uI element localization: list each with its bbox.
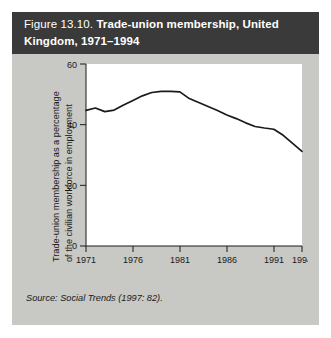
y-axis-ticks: 0 20 40 60 <box>67 60 86 251</box>
x-tick-label-1994: 1994 <box>292 255 308 265</box>
figure-container: Figure 13.10. Trade-union membership, Un… <box>12 12 319 325</box>
y-tick-label-40: 40 <box>67 120 77 130</box>
plot-background <box>86 64 302 246</box>
figure-header: Figure 13.10. Trade-union membership, Un… <box>12 12 319 54</box>
figure-title-line-1: Figure 13.10. Trade-union membership, Un… <box>24 16 307 33</box>
x-tick-label-1991: 1991 <box>264 255 284 265</box>
y-tick-label-20: 20 <box>67 181 77 191</box>
figure-title-line-2: Kingdom, 1971–1994 <box>24 33 307 50</box>
plot-region: Trade-union membership as a percentage o… <box>12 54 319 286</box>
chart-area: 0 20 40 60 1971 1976 1981 1986 <box>60 60 308 276</box>
y-tick-label-60: 60 <box>67 60 77 70</box>
figure-number: Figure 13.10. <box>24 18 93 30</box>
y-tick-label-0: 0 <box>72 241 77 251</box>
line-chart: 0 20 40 60 1971 1976 1981 1986 <box>60 60 308 276</box>
x-axis-ticks: 1971 1976 1981 1986 1991 1994 <box>76 246 308 265</box>
x-tick-label-1971: 1971 <box>76 255 96 265</box>
source-note: Source: Social Trends (1997: 82). <box>26 293 163 303</box>
x-tick-label-1986: 1986 <box>217 255 237 265</box>
x-tick-label-1976: 1976 <box>123 255 143 265</box>
x-tick-label-1981: 1981 <box>170 255 190 265</box>
figure-title-text-1: Trade-union membership, United <box>96 18 279 30</box>
y-axis-label: Trade-union membership as a percentage o… <box>18 54 52 264</box>
